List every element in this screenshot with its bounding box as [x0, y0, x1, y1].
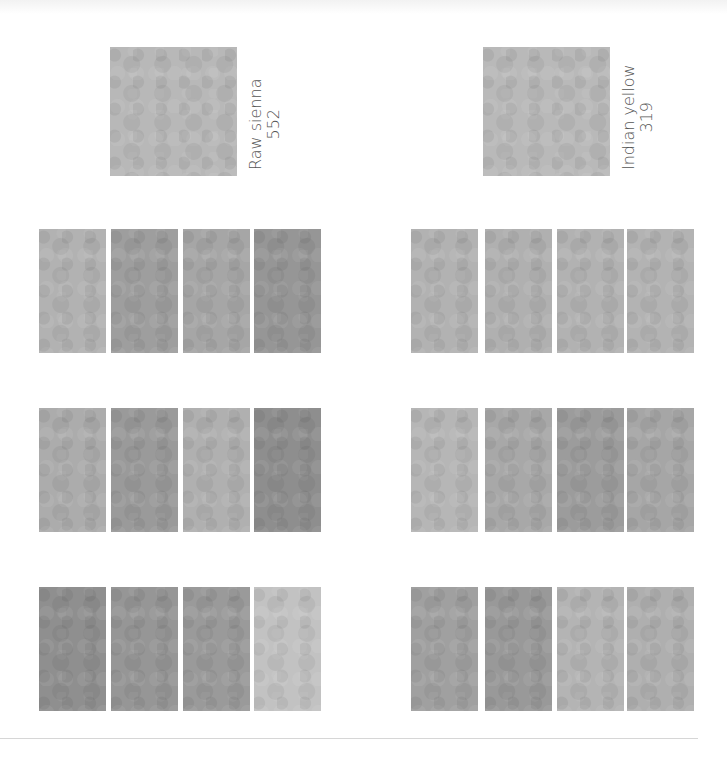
swatch-row3-col2 — [485, 587, 552, 711]
color-code: 552 — [265, 79, 283, 170]
color-code: 319 — [638, 64, 656, 170]
swatch-row3-col4 — [627, 587, 694, 711]
color-name: Indian yellow — [620, 64, 638, 170]
swatch-row3-col4 — [254, 587, 321, 711]
swatch-row1-col2 — [111, 229, 178, 353]
swatch-row1-col3 — [557, 229, 624, 353]
color-name: Raw sienna — [247, 79, 265, 170]
swatch-row1-col1 — [39, 229, 106, 353]
swatch-row2-col2 — [485, 408, 552, 532]
swatch-row2-col3 — [557, 408, 624, 532]
swatch-row3-col1 — [39, 587, 106, 711]
swatch-row1-col2 — [485, 229, 552, 353]
swatch-row3-col3 — [183, 587, 250, 711]
main-swatch — [110, 47, 237, 176]
swatch-row2-col4 — [627, 408, 694, 532]
footer-divider — [0, 738, 698, 739]
swatch-row1-col1 — [411, 229, 478, 353]
swatch-row3-col3 — [557, 587, 624, 711]
color-label: Raw sienna 552 — [247, 79, 283, 170]
swatch-row3-col1 — [411, 587, 478, 711]
swatch-row3-col2 — [111, 587, 178, 711]
swatch-row2-col3 — [183, 408, 250, 532]
top-edge-shadow — [0, 0, 727, 14]
swatch-row1-col3 — [183, 229, 250, 353]
main-swatch — [483, 47, 610, 176]
swatch-row1-col4 — [254, 229, 321, 353]
swatch-row2-col1 — [411, 408, 478, 532]
swatch-row2-col1 — [39, 408, 106, 532]
swatch-row1-col4 — [627, 229, 694, 353]
swatch-row2-col2 — [111, 408, 178, 532]
swatch-row2-col4 — [254, 408, 321, 532]
color-label: Indian yellow 319 — [620, 64, 656, 170]
